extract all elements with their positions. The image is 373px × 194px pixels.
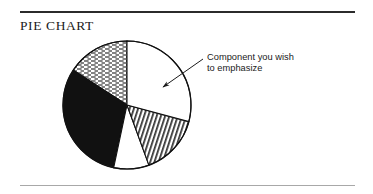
callout-label-line-2: to emphasize (207, 63, 294, 74)
callout-label: Component you wish to emphasize (207, 52, 294, 74)
bottom-divider-rule (20, 185, 355, 186)
pie-chart (0, 0, 373, 194)
figure-panel: PIE CHART (0, 0, 373, 194)
callout-label-line-1: Component you wish (207, 52, 294, 63)
